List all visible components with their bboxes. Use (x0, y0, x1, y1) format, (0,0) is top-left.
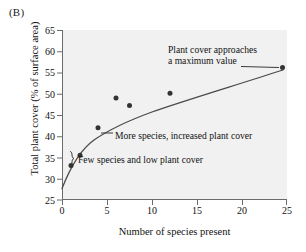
data-point-group (69, 65, 286, 168)
annotation-line: a maximum value (168, 55, 257, 66)
chart-graphics (0, 0, 306, 252)
x-tick-marks (63, 200, 287, 205)
leader-line-max-value (241, 67, 279, 68)
data-point (127, 103, 132, 108)
data-point (96, 125, 101, 130)
y-tick-marks (57, 31, 62, 201)
data-point (168, 91, 173, 96)
data-point (114, 96, 119, 101)
annotation-more-species: More species, increased plant cover (115, 130, 252, 141)
data-point (280, 65, 285, 70)
annotation-line: Few species and low plant cover (78, 154, 203, 165)
annotation-line: More species, increased plant cover (115, 130, 252, 141)
annotation-line: Plant cover approaches (168, 44, 257, 55)
figure-panel-b: (B) Total plant cover (% of surface area… (0, 0, 306, 252)
annotation-few-species: Few species and low plant cover (78, 154, 203, 165)
annotation-max-value: Plant cover approaches a maximum value (168, 44, 257, 67)
